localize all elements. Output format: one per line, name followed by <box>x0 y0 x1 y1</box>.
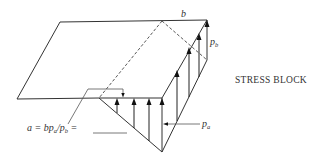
figure-title: STRESS BLOCK <box>235 75 307 85</box>
min-pressure-label: pa <box>201 118 210 130</box>
arrow-head-icon <box>175 70 180 77</box>
arrow-head-icon <box>115 98 120 105</box>
arrow-head-icon <box>132 98 137 105</box>
formula-label: a = bpa/pb = <box>27 122 77 134</box>
side-pressure-arrows <box>175 20 210 121</box>
arrow-head-icon <box>147 98 152 105</box>
stress-wedge <box>99 20 207 152</box>
width-label: b <box>181 8 186 19</box>
arrow-head-icon <box>121 93 124 98</box>
front-pressure-arrows <box>115 98 165 141</box>
stress-block-diagram: b pb pa a = bpa/pb = STRESS BLOCK <box>0 0 324 157</box>
arrow-head-icon <box>160 98 165 105</box>
hidden-edges <box>99 21 207 98</box>
slab-outline <box>17 20 207 99</box>
pa-leader <box>163 122 200 125</box>
max-pressure-label: pb <box>209 36 219 48</box>
arrow-head-icon <box>163 122 168 125</box>
